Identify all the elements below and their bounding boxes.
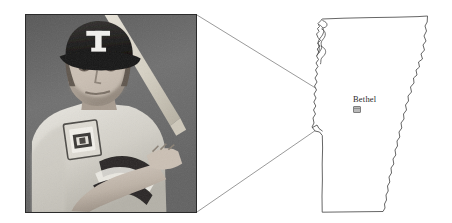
vermont-outline <box>312 16 428 212</box>
city-marker-bethel <box>353 106 361 113</box>
photo-canvas <box>26 15 196 212</box>
vermont-map-svg <box>300 0 452 223</box>
vermont-map <box>300 0 452 223</box>
player-photograph <box>25 14 197 213</box>
figure-root: Bethel <box>0 0 452 223</box>
photo-grain <box>26 15 196 212</box>
city-label-bethel: Bethel <box>353 95 376 104</box>
